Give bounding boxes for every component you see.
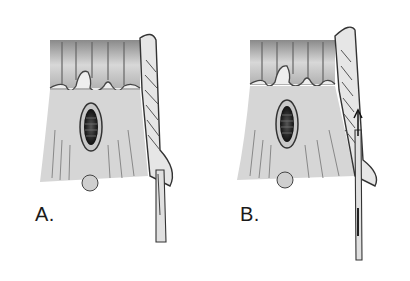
panel-a: A. [0,0,205,281]
panel-b: B. [205,0,410,281]
panel-label-b: B. [240,203,260,226]
anatomy-illustration-a [0,0,205,281]
anatomy-illustration-b [205,0,410,281]
panel-label-a: A. [35,203,55,226]
scalpel-icon [156,170,166,242]
probe-icon [355,130,362,260]
